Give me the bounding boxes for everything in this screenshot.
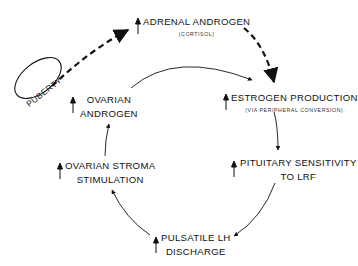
arrow-estrogen-to-pituitary [274, 112, 278, 150]
node-adrenal-androgen-subtext: (CORTISOL) [143, 32, 250, 37]
node-ovarian-stroma-line-2: STIMULATION [65, 175, 155, 185]
node-estrogen-production: ESTROGEN PRODUCTION (VIA PERIPHERAL CONV… [231, 93, 358, 113]
node-pulsatile-lh-line-1: PULSATILE LH [161, 233, 231, 243]
node-pulsatile-lh-line-2: DISCHARGE [161, 247, 231, 257]
up-arrow-icon-stroma [58, 163, 63, 179]
up-arrow-icon-adrenal [136, 18, 141, 34]
arrow-ovarian-androgen-to-estrogen [131, 67, 252, 88]
node-adrenal-androgen: ADRENAL ANDROGEN (CORTISOL) [143, 17, 250, 37]
up-arrow-icon-pituitary [232, 161, 237, 177]
node-adrenal-androgen-title: ADRENAL ANDROGEN [143, 17, 250, 27]
arrow-pituitary-to-lh [234, 183, 275, 236]
up-arrow-icon-estrogen [224, 94, 229, 110]
node-ovarian-stroma-line-1: OVARIAN STROMA [65, 161, 155, 171]
node-pulsatile-lh: PULSATILE LH DISCHARGE [161, 233, 231, 256]
arrow-puberty-to-adrenal [52, 30, 128, 86]
node-ovarian-androgen: OVARIAN ANDROGEN [80, 95, 138, 118]
up-arrow-icon-ovarian-androgen [71, 97, 76, 113]
up-arrow-icon-lh [154, 237, 159, 253]
arrow-stroma-to-ovarian-androgen [105, 124, 109, 156]
increase-arrows [58, 18, 237, 253]
node-pituitary-sensitivity-line-1: PITUITARY SENSITIVITY [240, 158, 357, 168]
node-pituitary-sensitivity: PITUITARY SENSITIVITY TO LRF [240, 158, 357, 181]
node-estrogen-production-title: ESTROGEN PRODUCTION [231, 93, 358, 103]
node-pituitary-sensitivity-line-2: TO LRF [240, 172, 357, 182]
node-ovarian-androgen-line-2: ANDROGEN [80, 109, 138, 119]
arrow-lh-to-stroma [112, 190, 150, 235]
node-ovarian-stroma: OVARIAN STROMA STIMULATION [65, 161, 155, 184]
node-estrogen-production-subtext: (VIA PERIPHERAL CONVERSION) [231, 108, 358, 113]
node-ovarian-androgen-line-1: OVARIAN [80, 95, 138, 105]
